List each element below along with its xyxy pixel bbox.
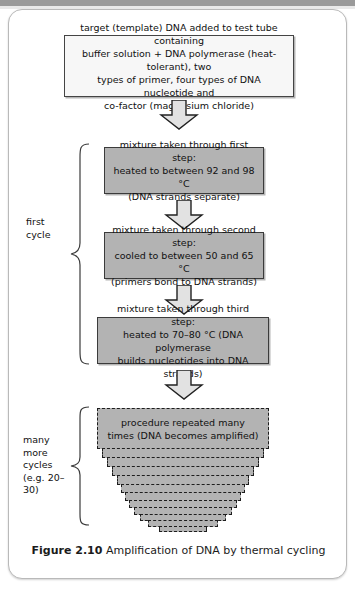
figure-panel: target (template) DNA added to test tube… [8,9,347,579]
repeated-cycles-stack: procedure repeated many times (DNA becom… [9,408,347,530]
step-1-line-2: heated to between 92 and 98 °C [113,165,254,189]
step-2-line-1: mixture taken through second step: [112,224,256,248]
first-cycle-label: first cycle [26,216,68,241]
first-cycle-label-line-2: cycle [26,229,51,240]
arrow-down-1 [159,100,199,130]
step-3-box: mixture taken through third step: heated… [97,317,269,364]
flowchart-canvas: target (template) DNA added to test tube… [9,10,347,530]
step-3-line-2: heated to 70–80 °C (DNA polymerase [123,329,243,353]
caption-divider [9,532,347,533]
step-1-line-1: mixture taken through first step: [120,139,248,163]
repeat-box: procedure repeated many times (DNA becom… [97,408,269,449]
figure-caption-text: Amplification of DNA by thermal cycling [106,544,326,557]
repeat-line-1: procedure repeated many [121,417,245,428]
intro-line-3: types of primer, four types of DNA nucle… [97,74,260,98]
figure-caption: Figure 2.10 Amplification of DNA by ther… [9,544,347,557]
intro-line-1: target (template) DNA added to test tube… [80,22,277,46]
step-2-line-2: cooled to between 50 and 65 °C [114,250,253,274]
first-cycle-brace [69,143,91,365]
step-1-box: mixture taken through first step: heated… [104,147,264,194]
repeat-line-2: times (DNA becomes amplified) [107,430,258,441]
figure-number: Figure 2.10 [32,544,103,557]
bottom-edge [0,583,355,589]
intro-line-2: buffer solution + DNA polymerase (heat-t… [82,48,276,72]
step-2-box: mixture taken through second step: coole… [104,232,264,279]
first-cycle-label-line-1: first [26,216,45,227]
intro-box: target (template) DNA added to test tube… [64,35,294,97]
arrow-down-4 [164,370,204,400]
step-3-line-1: mixture taken through third step: [117,303,249,327]
